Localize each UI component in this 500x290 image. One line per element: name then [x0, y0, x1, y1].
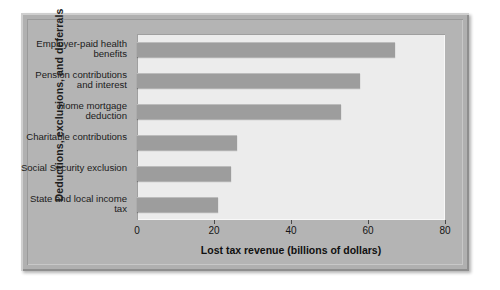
bar — [137, 135, 237, 150]
category-label: Employer-paid health benefits — [19, 39, 127, 60]
category-label: State and local income tax — [19, 194, 127, 215]
x-tick-mark — [214, 220, 215, 224]
bar — [137, 166, 231, 181]
x-tick-label: 60 — [362, 225, 373, 236]
category-label: Social Security exclusion — [19, 163, 127, 174]
x-axis-title: Lost tax revenue (billions of dollars) — [137, 244, 445, 256]
x-axis-ticks: 020406080 — [137, 220, 445, 228]
bar — [137, 104, 341, 119]
bar-series — [137, 34, 445, 220]
bar — [137, 197, 218, 212]
x-tick-label: 0 — [134, 225, 140, 236]
x-tick-mark — [368, 220, 369, 224]
plot-area — [137, 34, 445, 220]
bar — [137, 42, 395, 57]
x-tick-mark — [291, 220, 292, 224]
category-label: Home mortgage deduction — [19, 101, 127, 122]
category-label: Charitable contributions — [19, 132, 127, 143]
chart-figure: Deductions, exclusions, and deferrals Em… — [0, 0, 500, 290]
x-tick-label: 80 — [439, 225, 450, 236]
category-label: Pension contributions and interest — [19, 70, 127, 91]
x-tick-label: 20 — [208, 225, 219, 236]
category-label-list: Employer-paid health benefitsPension con… — [21, 34, 133, 220]
figure-frame: Deductions, exclusions, and deferrals Em… — [21, 13, 469, 271]
bar — [137, 73, 360, 88]
x-tick-label: 40 — [285, 225, 296, 236]
x-tick-mark — [445, 220, 446, 224]
